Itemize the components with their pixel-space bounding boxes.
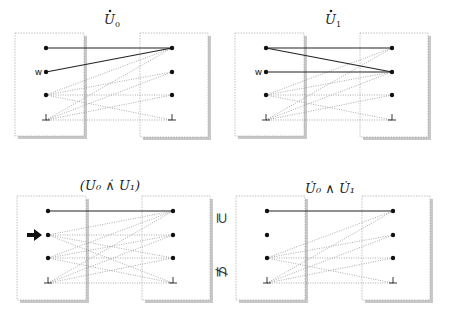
node-dot — [170, 70, 174, 74]
relation-symbol: ⊈ — [213, 266, 231, 279]
panel-title: U1 — [325, 12, 341, 29]
node-dot — [44, 93, 48, 97]
diagram-canvas: wU0wU1(U₀ ∧̇ U₁)U̇₀ ∧ U̇₁⊇⊈ — [0, 0, 450, 312]
node-dot — [390, 46, 394, 50]
node-label: w — [35, 67, 42, 77]
node-dot — [171, 233, 175, 237]
left-domain-box — [236, 196, 308, 303]
node-dot — [46, 233, 50, 237]
node-dot — [391, 209, 395, 213]
right-domain-box — [362, 196, 433, 303]
right-domain-box — [142, 196, 213, 303]
node-dot — [170, 93, 174, 97]
relation-symbol: ⊇ — [213, 212, 231, 225]
node-dot — [46, 209, 50, 213]
right-domain-box — [140, 33, 211, 140]
node-label: w — [255, 67, 262, 77]
node-dot — [44, 70, 48, 74]
node-dot — [390, 70, 394, 74]
node-dot — [391, 233, 395, 237]
node-dot — [264, 93, 268, 97]
left-domain-box — [15, 33, 87, 139]
panel-u0dot-wedge-u1dot: U̇₀ ∧ U̇₁ — [236, 181, 433, 303]
panel-title: (U₀ ∧̇ U₁) — [80, 178, 140, 193]
node-dot — [171, 209, 175, 213]
node-dot — [391, 256, 395, 260]
node-dot — [265, 256, 269, 260]
node-dot — [264, 70, 268, 74]
panel-title: U0 — [104, 12, 120, 29]
panel-u1: wU1 — [235, 10, 431, 140]
panel-u0: wU0 — [15, 10, 211, 140]
node-dot — [46, 256, 50, 260]
node-dot — [264, 46, 268, 50]
node-dot — [171, 256, 175, 260]
panel-u0-dotwedge-u1: (U₀ ∧̇ U₁) — [17, 178, 213, 303]
panel-title: U̇₀ ∧ U̇₁ — [305, 181, 355, 196]
node-dot — [265, 209, 269, 213]
node-dot — [265, 233, 269, 237]
node-dot — [170, 46, 174, 50]
left-domain-box — [17, 196, 89, 303]
right-domain-box — [360, 33, 431, 140]
node-dot — [44, 46, 48, 50]
node-dot — [390, 93, 394, 97]
